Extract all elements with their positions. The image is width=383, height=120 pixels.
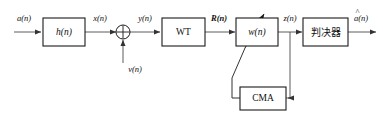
block-channel-label: h(n)	[56, 27, 72, 38]
block-decision-label: 判决器	[311, 27, 341, 38]
summing-junction[interactable]	[116, 25, 130, 39]
wire-feedback-z-to-cma	[286, 32, 291, 98]
block-wt-label: WT	[176, 27, 191, 37]
block-wt[interactable]: WT	[162, 18, 205, 46]
block-channel[interactable]: h(n)	[43, 18, 85, 46]
signal-label-equalizer-out: z(n)	[282, 13, 296, 23]
signal-label-channel-out: x(n)	[92, 13, 107, 23]
block-cma-label: CMA	[252, 93, 274, 103]
block-cma[interactable]: CMA	[240, 87, 286, 110]
diagram-canvas: h(n) WT w(n) 判决器 CMA a(n) x(n) v(n) y	[0, 0, 383, 120]
signal-label-input: a(n)	[17, 13, 31, 23]
signal-label-sum-out: y(n)	[137, 13, 152, 23]
block-equalizer-label: w(n)	[248, 27, 265, 38]
signal-label-output: a(n)	[354, 13, 368, 23]
signal-label-noise: v(n)	[128, 64, 142, 74]
signal-label-wt-out: R(n)	[210, 13, 227, 23]
block-diagram-figure: h(n) WT w(n) 判决器 CMA a(n) x(n) v(n) y	[0, 0, 383, 120]
block-equalizer[interactable]: w(n)	[236, 18, 278, 46]
block-decision[interactable]: 判决器	[303, 18, 348, 46]
